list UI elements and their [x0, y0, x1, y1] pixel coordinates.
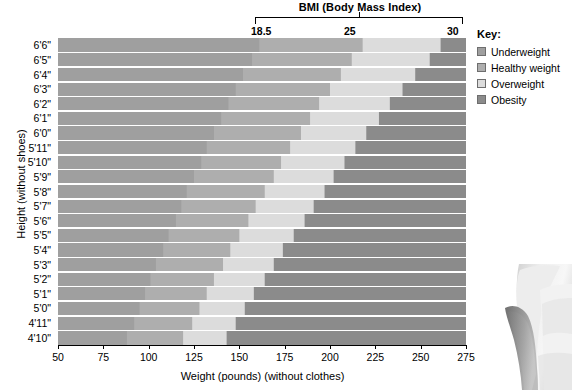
- x-axis-tick-label: 225: [355, 351, 395, 363]
- x-axis-title: Weight (pounds) (without clothes): [58, 370, 467, 382]
- y-axis-tick-label: 6'6": [34, 39, 51, 51]
- y-axis-tick-label: 4'10": [28, 332, 51, 344]
- y-axis-tick-label: 4'11": [29, 317, 51, 329]
- legend-item-label: Obesity: [491, 94, 527, 106]
- x-axis-line: [58, 345, 467, 346]
- legend-swatch-icon: [477, 47, 486, 56]
- y-axis-tick-label: 5'8": [34, 186, 51, 198]
- x-axis-tick: [239, 345, 240, 349]
- x-axis-tick: [194, 345, 195, 349]
- legend-item[interactable]: Overweight: [477, 76, 572, 91]
- bmi-bracket: [255, 17, 463, 24]
- x-axis-tick: [149, 345, 150, 349]
- legend-title: Key:: [477, 28, 572, 40]
- x-axis-tick-label: 125: [174, 351, 214, 363]
- legend-swatch-icon: [477, 79, 486, 88]
- person-illustration: [484, 264, 572, 390]
- legend-item[interactable]: Underweight: [477, 44, 572, 59]
- y-axis-tick-label: 6'3": [34, 83, 51, 95]
- y-axis-tick-label: 5'7": [34, 200, 51, 212]
- legend-item[interactable]: Healthy weight: [477, 60, 572, 75]
- x-axis-tick: [466, 345, 467, 349]
- x-axis-tick: [103, 345, 104, 349]
- bmi-scale-header: BMI (Body Mass Index) 18.5 25 30: [255, 1, 465, 37]
- x-axis-tick-label: 50: [38, 351, 78, 363]
- bmi-tick-label-30: 30: [447, 25, 459, 37]
- x-axis-tick: [375, 345, 376, 349]
- y-axis-tick-labels: 6'6"6'5"6'4"6'3"6'2"6'1"6'0"5'11"5'10"5'…: [0, 32, 54, 347]
- bmi-band-shapes: [58, 38, 466, 345]
- bmi-tick-label-25: 25: [344, 25, 356, 37]
- legend: Key: UnderweightHealthy weightOverweight…: [477, 28, 572, 108]
- legend-swatch-icon: [477, 95, 486, 104]
- y-axis-tick-label: 6'4": [34, 69, 51, 81]
- y-axis-tick-label: 6'0": [34, 127, 51, 139]
- x-axis-tick: [421, 345, 422, 349]
- y-axis-tick-label: 5'0": [34, 302, 51, 314]
- bmi-chart-plot-area: [58, 38, 466, 345]
- y-axis-tick-label: 5'4": [34, 244, 51, 256]
- bmi-bracket-middle-tick: [359, 12, 360, 18]
- legend-item-label: Underweight: [491, 46, 550, 58]
- legend-swatch-icon: [477, 63, 486, 72]
- person-photo: [484, 264, 572, 390]
- x-axis-tick: [285, 345, 286, 349]
- x-axis-tick-label: 250: [401, 351, 441, 363]
- y-axis-tick-label: 5'5": [34, 229, 51, 241]
- x-axis-tick-label: 150: [219, 351, 259, 363]
- y-axis-tick-label: 5'2": [34, 273, 51, 285]
- y-axis-tick-label: 5'9": [34, 171, 51, 183]
- x-axis-tick: [58, 345, 59, 349]
- y-axis-tick-label: 6'5": [34, 54, 51, 66]
- y-axis-tick-label: 6'2": [34, 98, 51, 110]
- x-axis-tick-label: 75: [83, 351, 123, 363]
- y-axis-tick-label: 5'11": [29, 142, 51, 154]
- x-axis-tick-label: 275: [446, 351, 486, 363]
- y-axis-tick-label: 5'3": [34, 259, 51, 271]
- x-axis-tick-label: 200: [310, 351, 350, 363]
- y-axis-tick-label: 5'6": [34, 215, 51, 227]
- y-axis-tick-label: 6'1": [34, 112, 51, 124]
- x-axis-tick-label: 100: [129, 351, 169, 363]
- legend-items: UnderweightHealthy weightOverweightObesi…: [477, 44, 572, 107]
- x-axis-tick-label: 175: [265, 351, 305, 363]
- legend-item-label: Healthy weight: [491, 62, 560, 74]
- y-axis-tick-label: 5'10": [28, 156, 51, 168]
- bmi-tick-label-18-5: 18.5: [251, 25, 271, 37]
- bmi-scale-title: BMI (Body Mass Index): [255, 1, 465, 13]
- legend-item-label: Overweight: [491, 78, 544, 90]
- legend-item[interactable]: Obesity: [477, 92, 572, 107]
- x-axis-tick: [330, 345, 331, 349]
- y-axis-tick-label: 5'1": [34, 288, 51, 300]
